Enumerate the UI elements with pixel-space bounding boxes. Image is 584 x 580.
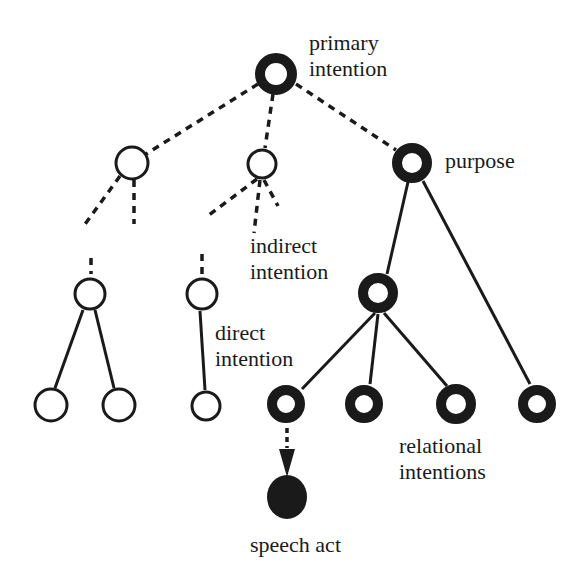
node-relational-1 [272,390,300,418]
node-relational-3 [441,389,471,419]
label-direct-intention: direct intention [215,320,293,372]
edge-primary-purpose [296,84,396,150]
label-relational-line2: intentions [399,459,486,485]
label-indirect-line2: intention [250,259,328,285]
label-indirect-line1: indirect [250,233,328,259]
edge-relational-2 [370,314,378,384]
node-subtree-b-root [187,279,217,309]
edge-middle-stub-3 [264,180,278,206]
intention-tree-diagram [0,0,584,580]
edge-purpose-relational-root [387,182,408,274]
node-leaf-b1 [192,392,220,420]
label-primary-intention: primary intention [309,30,387,82]
label-direct-line2: intention [215,346,293,372]
label-indirect-intention: indirect intention [250,233,328,285]
node-middle-open [248,150,276,178]
label-speech-act: speech act [250,532,341,558]
node-purpose [397,148,427,178]
node-relational-2 [350,390,378,418]
edge-primary-left [146,84,258,154]
label-primary-line1: primary [309,30,387,56]
edge-purpose-relational-4 [423,181,530,384]
label-speech-act-text: speech act [250,532,341,558]
node-leaf-a1 [35,389,67,421]
label-relational-line1: relational [399,433,486,459]
edge-middle-stub-1 [205,179,257,218]
edge-middle-stub-2 [254,180,260,233]
label-direct-line1: direct [215,320,293,346]
edge-b-root-b1 [200,311,205,390]
label-purpose-text: purpose [445,148,515,174]
edge-relational-1 [302,313,375,389]
node-leaf-a2 [103,389,135,421]
node-subtree-a-root [75,279,105,309]
edge-primary-middle [265,94,273,148]
arrowhead-icon [279,449,295,477]
node-relational-root [363,278,393,308]
label-primary-line2: intention [309,56,387,82]
node-speech-act [267,475,307,519]
node-relational-4 [523,390,551,418]
edge-relational-3 [384,313,447,386]
node-primary-intention [260,58,292,90]
edge-a-root-a2 [95,310,114,388]
label-relational-intentions: relational intentions [399,433,486,485]
label-purpose: purpose [445,148,515,174]
edge-left-stub-1 [83,176,120,227]
edge-a-root-a1 [55,310,83,388]
node-left-open [116,147,148,179]
